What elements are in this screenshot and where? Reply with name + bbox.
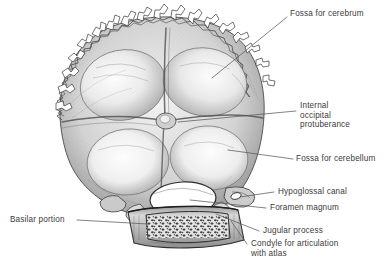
label-basilar-portion: Basilar portion	[10, 215, 65, 225]
label-hypoglossal-canal: Hypoglossal canal	[278, 187, 347, 197]
basilar-portion	[128, 206, 244, 248]
anatomical-figure-plate: Fossa for cerebrum Internal occipital pr…	[0, 0, 388, 266]
occipital-bone-illustration	[0, 0, 388, 266]
label-condyle-for-articulation-with-atlas: Condyle for articulation with atlas	[251, 239, 338, 258]
label-fossa-for-cerebrum: Fossa for cerebrum	[290, 9, 364, 19]
label-fossa-for-cerebellum: Fossa for cerebellum	[296, 154, 375, 164]
internal-occipital-protuberance	[156, 113, 176, 129]
label-foramen-magnum: Foramen magnum	[270, 203, 339, 213]
label-jugular-process: Jugular process	[263, 226, 323, 236]
label-internal-occipital-protuberance: Internal occipital protuberance	[300, 101, 350, 130]
